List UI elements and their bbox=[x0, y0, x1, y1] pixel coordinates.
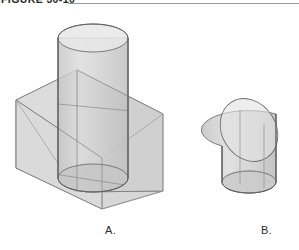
panel-a-caption: A. bbox=[105, 224, 116, 236]
panel-b-caption: B. bbox=[261, 224, 272, 236]
cylinder-b-oblique-cut-ellipse bbox=[209, 88, 290, 173]
figure-number-label: FIGURE 30-10 bbox=[1, 0, 75, 5]
header-divider-rule bbox=[68, 3, 299, 4]
figure-illustration-stage bbox=[0, 6, 299, 222]
figure-svg bbox=[0, 6, 299, 222]
panel-a-graphic bbox=[16, 24, 163, 209]
panel-b-graphic bbox=[201, 88, 289, 193]
